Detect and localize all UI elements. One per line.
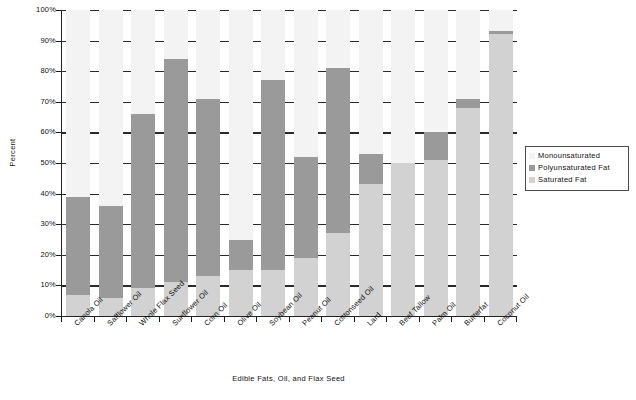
y-tick-label: 20% [20,251,56,259]
bar-segment-monounsaturated [164,10,188,59]
gridline [62,10,517,11]
y-axis-tick-labels: 0%10%20%30%40%50%60%70%80%90%100% [20,10,56,316]
y-tick-label: 30% [20,220,56,228]
bar-column [294,10,318,316]
bar-segment-monounsaturated [99,10,123,206]
bar-column [164,10,188,316]
bar-segment-monounsaturated [359,10,383,154]
y-tick-label: 80% [20,67,56,75]
bar-segment-polyunsaturated [99,206,123,298]
bar-segment-saturated [456,108,480,316]
bar-column [326,10,350,316]
bar-segment-monounsaturated [131,10,155,114]
bar-segment-monounsaturated [456,10,480,99]
legend-label: Polyunsaturated Fat [538,163,610,172]
bar-segment-monounsaturated [489,10,513,31]
bar-column [489,10,513,316]
bar-segment-polyunsaturated [456,99,480,108]
gridline [62,71,517,72]
y-tick-label: 100% [20,6,56,14]
y-tick-label: 0% [20,312,56,320]
legend-swatch-icon [529,177,535,183]
gridline [62,285,517,286]
bar-segment-monounsaturated [391,10,415,163]
bar-column [261,10,285,316]
bar-column [99,10,123,316]
gridline [62,41,517,42]
bar-column [391,10,415,316]
legend-label: Saturated Fat [538,175,587,184]
bar-segment-polyunsaturated [164,59,188,282]
bar-segment-polyunsaturated [326,68,350,233]
y-tick-label: 70% [20,98,56,106]
y-tick-label: 60% [20,128,56,136]
chart-legend: MonounsaturatedPolyunsaturated FatSatura… [525,146,629,191]
fat-composition-chart: Percent 0%10%20%30%40%50%60%70%80%90%100… [0,0,636,400]
bar-column [229,10,253,316]
bar-segment-monounsaturated [294,10,318,157]
bar-column [424,10,448,316]
y-tick-label: 90% [20,37,56,45]
bar-segment-polyunsaturated [424,132,448,160]
plot-area [62,10,517,316]
legend-item: Monounsaturated [529,150,625,161]
gridline [62,255,517,256]
gridline [62,102,517,103]
gridline [62,163,517,164]
bar-segment-polyunsaturated [131,114,155,288]
bar-segment-monounsaturated [261,10,285,80]
y-tick-label: 50% [20,159,56,167]
y-axis-title: Percent [8,108,17,198]
gridline [62,224,517,225]
bar-segment-monounsaturated [326,10,350,68]
bar-segment-polyunsaturated [261,80,285,270]
y-tick-label: 40% [20,190,56,198]
bar-column [131,10,155,316]
bar-segment-polyunsaturated [229,240,253,271]
plot-frame [61,10,517,317]
legend-swatch-icon [529,165,535,171]
gridline [62,132,517,133]
x-axis-title: Edible Fats, Oil, and Flax Seed [61,374,516,383]
bar-segment-polyunsaturated [196,99,220,276]
legend-item: Saturated Fat [529,174,625,185]
bar-segment-saturated [424,160,448,316]
bar-segment-monounsaturated [229,10,253,240]
bar-segment-polyunsaturated [294,157,318,258]
bar-column [196,10,220,316]
y-tick-label: 10% [20,281,56,289]
bar-segment-monounsaturated [196,10,220,99]
legend-item: Polyunsaturated Fat [529,162,625,173]
bar-segment-polyunsaturated [359,154,383,185]
legend-swatch-icon [529,153,535,159]
bar-segment-monounsaturated [424,10,448,132]
bar-segment-monounsaturated [66,10,90,197]
bar-column [66,10,90,316]
x-axis-tick-labels: Canola OilSafflower OilWhole Flax SeedSu… [61,322,531,370]
bar-segment-polyunsaturated [66,197,90,295]
bar-column [359,10,383,316]
legend-label: Monounsaturated [538,151,600,160]
bar-column [456,10,480,316]
bar-segment-saturated [489,34,513,316]
gridline [62,194,517,195]
bar-segment-saturated [391,163,415,316]
